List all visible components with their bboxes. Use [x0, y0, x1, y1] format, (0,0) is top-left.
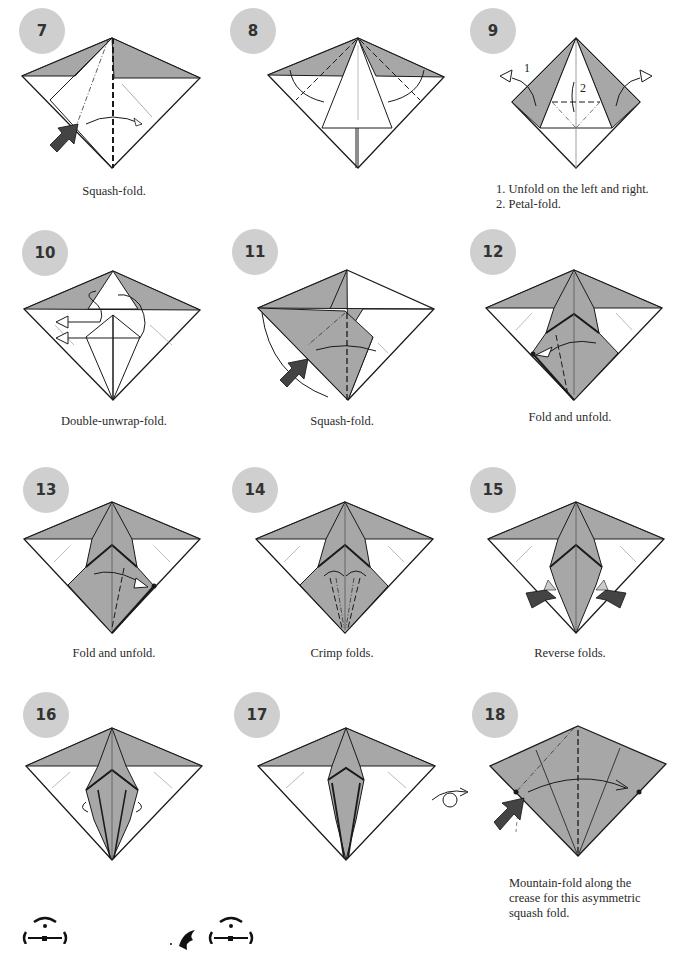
push-arrow-icon [280, 359, 308, 387]
push-arrow-icon [494, 798, 524, 830]
fold-diagram [228, 0, 456, 225]
sub-step-label: 1 [524, 61, 530, 75]
caption-line: 1. Unfold on the left and right. [496, 182, 684, 197]
step-caption: Fold and unfold. [0, 646, 228, 661]
ornament-icon [20, 914, 70, 944]
step-caption: Crimp folds. [228, 646, 456, 661]
fold-diagram [456, 680, 684, 905]
caption-line: 2. Petal-fold. [496, 197, 684, 212]
fold-diagram [0, 450, 228, 675]
step-caption: Mountain-fold along the crease for this … [509, 876, 679, 921]
sub-step-label: 2 [580, 81, 586, 95]
fold-diagram [228, 680, 456, 905]
step-14: 14 Crimp folds. [228, 450, 456, 675]
fold-diagram [0, 680, 228, 905]
step-caption: Reverse folds. [456, 646, 684, 661]
step-caption: 1. Unfold on the left and right. 2. Peta… [496, 182, 684, 212]
caption-line: squash fold. [509, 906, 679, 921]
step-12: 12 Fold and unfold. [456, 225, 684, 450]
ornament-icon [206, 914, 256, 944]
bird-ornament-icon [165, 928, 205, 954]
step-11: 11 Squash-fold. [228, 225, 456, 450]
fold-diagram [228, 450, 456, 675]
step-caption: Fold and unfold. [456, 410, 684, 425]
step-13: 13 Fold and unfold. [0, 450, 228, 675]
step-17: 17 [228, 680, 456, 905]
step-9: 9 1 2 1. Unfold on the left and right. 2… [456, 0, 684, 225]
step-8: 8 [228, 0, 456, 225]
step-15: 15 Reverse folds. [456, 450, 684, 675]
caption-line: Mountain-fold along the [509, 876, 679, 891]
step-caption: Squash-fold. [228, 414, 456, 429]
fold-diagram [456, 450, 684, 675]
step-caption: Squash-fold. [0, 184, 228, 199]
step-7: 7 Squash-fold. [0, 0, 228, 225]
step-16: 16 [0, 680, 228, 905]
step-caption: Double-unwrap-fold. [0, 414, 228, 429]
caption-line: crease for this asymmetric [509, 891, 679, 906]
step-18: 18 Mountain-fold along the crease for th… [456, 680, 684, 905]
step-10: 10 Double-unwrap-fold. [0, 225, 228, 450]
push-arrow-icon [50, 124, 78, 152]
